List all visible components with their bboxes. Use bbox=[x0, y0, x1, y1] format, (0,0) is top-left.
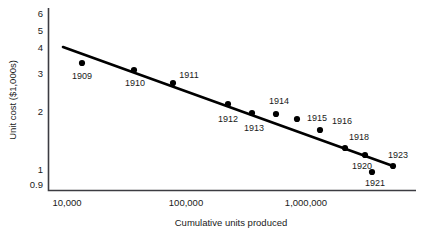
data-point-1912 bbox=[225, 101, 231, 107]
data-point-1915 bbox=[294, 116, 300, 122]
data-label-1910: 1910 bbox=[125, 78, 145, 88]
data-point-1910 bbox=[131, 67, 137, 73]
data-label-1918: 1918 bbox=[349, 132, 369, 142]
chart-container: 6 5 4 3 2 1 0.9 10,000 100,000 1,000,000… bbox=[0, 0, 426, 242]
data-point-1918 bbox=[342, 145, 348, 151]
data-label-1916: 1916 bbox=[332, 116, 352, 126]
y-tick-6: 6 bbox=[38, 8, 43, 19]
x-tick-1m: 1,000,000 bbox=[285, 197, 327, 208]
data-label-1909: 1909 bbox=[72, 71, 92, 81]
y-tick-4: 4 bbox=[38, 42, 43, 53]
x-axis-title: Cumulative units produced bbox=[175, 217, 287, 228]
y-tick-5: 5 bbox=[38, 25, 43, 36]
y-axis-title: Unit cost ($1,000s) bbox=[7, 60, 18, 140]
data-label-1911: 1911 bbox=[179, 70, 198, 80]
data-point-1909 bbox=[79, 60, 85, 66]
data-point-1911 bbox=[170, 80, 176, 86]
y-tick-3: 3 bbox=[38, 68, 43, 79]
data-label-1920: 1920 bbox=[352, 161, 372, 171]
data-point-1920 bbox=[362, 152, 368, 158]
data-point-1923 bbox=[390, 163, 396, 169]
y-tick-2: 2 bbox=[38, 106, 43, 117]
x-tick-100k: 100,000 bbox=[169, 197, 203, 208]
data-point-1916 bbox=[317, 127, 323, 133]
data-label-1921: 1921 bbox=[365, 178, 385, 188]
data-label-1914: 1914 bbox=[269, 96, 289, 106]
data-point-1914 bbox=[273, 111, 279, 117]
data-label-1915: 1915 bbox=[307, 113, 327, 123]
data-label-1923: 1923 bbox=[388, 150, 408, 160]
learning-curve-chart: 6 5 4 3 2 1 0.9 10,000 100,000 1,000,000… bbox=[0, 0, 426, 242]
data-label-1913: 1913 bbox=[244, 123, 264, 133]
x-tick-10k: 10,000 bbox=[52, 197, 81, 208]
y-tick-1: 1 bbox=[38, 164, 43, 175]
y-tick-0-9: 0.9 bbox=[30, 179, 43, 190]
data-label-1912: 1912 bbox=[218, 114, 238, 124]
data-point-1913 bbox=[249, 110, 255, 116]
